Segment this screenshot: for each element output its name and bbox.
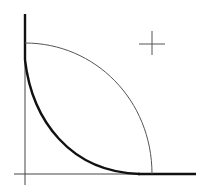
crosshair-icon bbox=[139, 31, 165, 55]
thin-convex-arc bbox=[25, 43, 152, 174]
quadrant-curve-diagram bbox=[0, 0, 204, 187]
thick-concave-curve bbox=[25, 60, 140, 174]
